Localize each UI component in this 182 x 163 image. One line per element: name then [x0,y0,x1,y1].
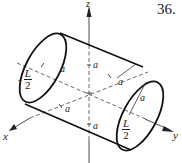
right-end-cap [107,74,173,157]
problem-number: 36. [157,2,176,17]
dimension-a-body-upper: a [60,64,65,74]
left-fraction: - L 2 [18,68,32,91]
z-axis-label: z [86,0,90,9]
left-fraction-sign: - [18,74,22,85]
dimension-a-top: a [93,60,98,70]
right-fraction-denominator: 2 [123,130,129,141]
dimension-a-bottom: a [93,121,98,131]
diagram-figure: 36. z x y a a a a a a a a a a a a a a a … [0,0,182,163]
dimension-a-cap-radius: a [140,93,145,103]
arrowheads [9,6,174,132]
dimension-a-right: a [118,77,123,87]
x-arrow-icon [9,124,17,131]
dimension-a-left: a [65,104,70,114]
axes [12,10,170,163]
right-fraction: L 2 [122,118,130,141]
left-fraction-denominator: 2 [25,80,31,91]
y-axis-label: y [173,130,178,141]
x-axis-label: x [3,131,8,142]
